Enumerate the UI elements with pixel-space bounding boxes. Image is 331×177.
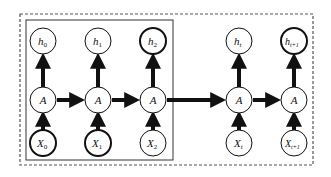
node-Xt: Xt [226,130,252,156]
svg-text:A: A [149,94,157,106]
node-X0: X0 [30,130,56,156]
svg-text:A: A [94,94,102,106]
node-A1: A [85,87,111,113]
node-h0: h0 [30,28,56,54]
node-ht1: ht+1 [281,28,307,54]
node-h2: h2 [140,28,166,54]
node-ht: ht [226,28,252,54]
input-nodes: X0 X1 X2 Xt Xt+1 [30,130,307,156]
node-Xt1: Xt+1 [281,130,307,156]
input-arrows [43,118,294,130]
svg-text:A: A [235,94,243,106]
node-A2: A [140,87,166,113]
node-X1: X1 [85,130,111,156]
output-nodes: h0 h1 h2 ht ht+1 [30,28,307,54]
node-h1: h1 [85,28,111,54]
node-X2: X2 [140,130,166,156]
node-At: A [226,87,252,113]
rnn-diagram: h0 h1 h2 ht ht+1 A A A A A X0 X1 X2 X [0,0,331,177]
svg-text:A: A [39,94,47,106]
node-At1: A [281,87,307,113]
node-A0: A [30,87,56,113]
sequence-dashed-border [20,14,313,165]
output-arrows [43,60,294,87]
svg-text:A: A [290,94,298,106]
